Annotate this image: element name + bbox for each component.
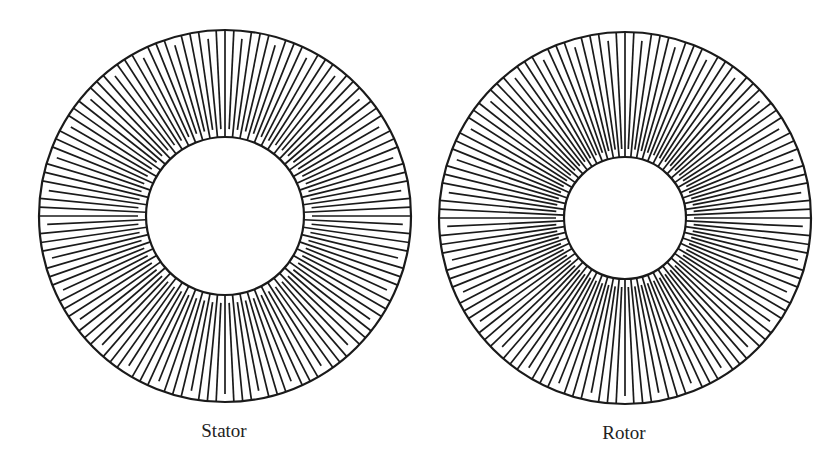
rotor-caption: Rotor — [602, 422, 645, 444]
rotor-disc — [439, 32, 811, 404]
stator-rotor-diagram — [0, 0, 838, 471]
stator-caption: Stator — [201, 420, 246, 442]
stator-disc — [39, 30, 411, 402]
